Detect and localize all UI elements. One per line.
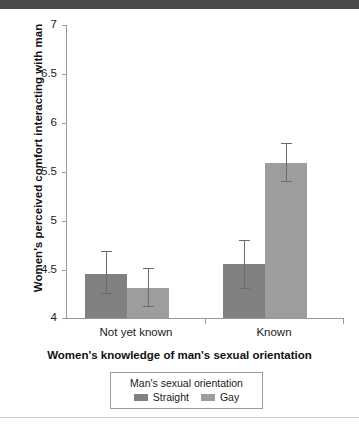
errorbar-cap-bottom bbox=[239, 288, 250, 289]
errorbar-cap-top bbox=[239, 240, 250, 241]
x-axis-title: Women's knowledge of man's sexual orient… bbox=[0, 349, 359, 361]
errorbar-cap-bottom bbox=[281, 181, 292, 182]
y-tick-label: 4 bbox=[17, 312, 57, 324]
bar-gay-known bbox=[265, 163, 307, 318]
errorbar-stem bbox=[244, 240, 245, 289]
legend-title: Man's sexual orientation bbox=[117, 377, 256, 390]
legend-label-straight: Straight bbox=[153, 392, 189, 403]
errorbar-straight-known bbox=[223, 240, 265, 289]
errorbar-stem bbox=[286, 143, 287, 182]
caption-strip bbox=[0, 0, 359, 9]
bottom-divider bbox=[0, 417, 359, 418]
plot-area bbox=[66, 25, 344, 318]
x-tick-label-known: Known bbox=[204, 327, 344, 339]
x-tick-mark bbox=[205, 319, 206, 324]
y-tick-mark bbox=[62, 318, 67, 319]
figure: 7 6.5 6 5.5 5 4.5 4 Not yet known Known bbox=[0, 0, 359, 427]
y-axis-title: Women's perceived comfort interacting wi… bbox=[32, 8, 44, 308]
errorbar-cap-bottom bbox=[101, 293, 112, 294]
x-tick-mark bbox=[343, 319, 344, 324]
errorbar-gay-known bbox=[265, 143, 307, 182]
errorbar-cap-top bbox=[281, 143, 292, 144]
legend-swatch-gay bbox=[201, 394, 215, 401]
legend-label-gay: Gay bbox=[220, 392, 239, 403]
errorbar-cap-top bbox=[101, 251, 112, 252]
legend-item-gay: Gay bbox=[201, 392, 239, 403]
errorbar-stem bbox=[106, 251, 107, 294]
errorbar-stem bbox=[148, 268, 149, 307]
legend-items: Straight Gay bbox=[117, 392, 256, 403]
errorbar-cap-bottom bbox=[143, 306, 154, 307]
errorbar-straight-not-yet-known bbox=[85, 251, 127, 294]
legend: Man's sexual orientation Straight Gay bbox=[110, 372, 263, 409]
legend-item-straight: Straight bbox=[134, 392, 189, 403]
legend-swatch-straight bbox=[134, 394, 148, 401]
errorbar-cap-top bbox=[143, 268, 154, 269]
errorbar-gay-not-yet-known bbox=[127, 268, 169, 307]
x-tick-label-not-yet-known: Not yet known bbox=[66, 327, 206, 339]
